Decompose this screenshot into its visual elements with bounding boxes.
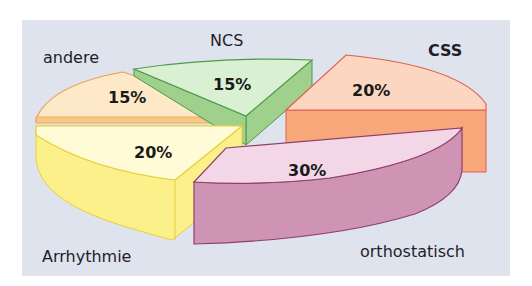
pct-orthostatisch: 30% (288, 161, 326, 180)
label-andere: andere (43, 48, 99, 67)
label-arrhythmie: Arrhythmie (42, 247, 131, 266)
pie-chart: andere NCS CSS Arrhythmie orthostatisch … (0, 0, 532, 286)
label-ncs: NCS (210, 31, 243, 50)
pct-ncs: 15% (213, 75, 251, 94)
label-css: CSS (428, 41, 462, 60)
label-orthostatisch: orthostatisch (360, 242, 465, 261)
pct-css: 20% (352, 81, 390, 100)
pct-andere: 15% (108, 88, 146, 107)
pct-arrhythmie: 20% (134, 143, 172, 162)
